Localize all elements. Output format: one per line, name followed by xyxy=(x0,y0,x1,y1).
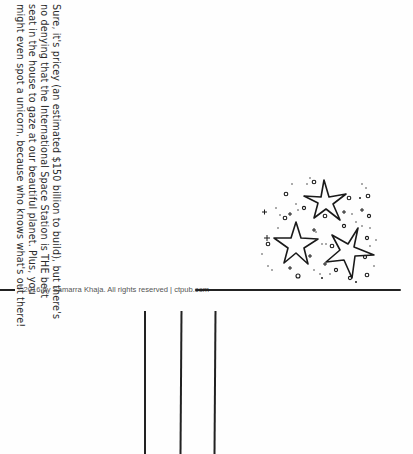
footer: ©2016 by Samarra Khaja. All rights reser… xyxy=(0,283,413,297)
coloring-page: Sure, it's pricey (an estimated $150 bil… xyxy=(0,0,413,454)
copyright-text: ©2016 by Samarra Khaja. All rights reser… xyxy=(18,283,209,297)
caption-line-1: Sure, it's pricey (an estimated $150 bil… xyxy=(50,4,62,284)
star-icon xyxy=(326,228,374,278)
caption-line-2: no denying that the International Space … xyxy=(38,4,50,284)
handwritten-caption: Sure, it's pricey (an estimated $150 bil… xyxy=(14,4,62,284)
caption-line-4: might even spot a unicorn, because who k… xyxy=(14,4,26,284)
caption-line-3: seat in the house to gaze at our beautif… xyxy=(26,4,38,284)
footer-rule-left xyxy=(0,289,15,291)
vertical-line-3 xyxy=(214,311,217,454)
stars-illustration xyxy=(252,170,382,290)
star-icon xyxy=(274,222,318,264)
footer-rule-right xyxy=(195,289,401,291)
vertical-line-2 xyxy=(180,311,183,454)
vertical-line-1 xyxy=(144,311,146,454)
